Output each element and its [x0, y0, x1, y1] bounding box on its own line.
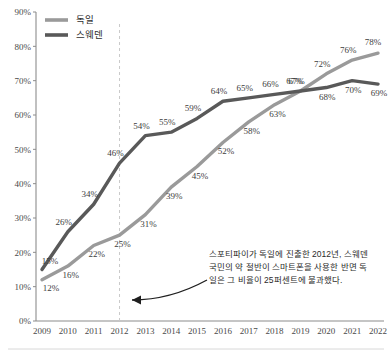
- annotation-line: 일은 그 비율이 25퍼센트에 불과했다.: [209, 275, 342, 285]
- x-axis-tick-label: 2016: [214, 326, 233, 336]
- data-label: 45%: [192, 171, 209, 181]
- data-label: 58%: [244, 126, 261, 136]
- data-label: 22%: [88, 249, 105, 259]
- x-axis-tick-label: 2013: [136, 326, 155, 336]
- data-label: 68%: [319, 92, 336, 102]
- series-line-2: [42, 81, 378, 270]
- y-axis-tick-label: 60%: [15, 110, 32, 120]
- x-axis-tick-label: 2019: [291, 326, 310, 336]
- data-label: 59%: [185, 103, 202, 113]
- data-label: 70%: [345, 85, 362, 95]
- data-label: 67%: [286, 76, 303, 86]
- y-axis-tick-label: 50%: [15, 145, 32, 155]
- data-label: 34%: [81, 189, 98, 199]
- line-chart: 0%10%20%30%40%50%60%70%80%90%20092010201…: [0, 0, 392, 358]
- annotation-line: 국민의 약 절반이 스마트폰을 사용한 반면 독: [209, 262, 367, 272]
- y-axis-tick-label: 20%: [15, 248, 32, 258]
- x-axis-tick-label: 2020: [317, 326, 336, 336]
- data-label: 55%: [159, 117, 176, 127]
- x-axis-tick-label: 2018: [266, 326, 285, 336]
- annotation-line: 스포티파이가 독일에 진출한 2012년, 스웨덴: [209, 249, 368, 259]
- y-axis-tick-label: 30%: [15, 213, 32, 223]
- data-label: 12%: [43, 283, 60, 293]
- annotation-arrow-icon: [132, 280, 207, 300]
- data-label: 78%: [365, 37, 382, 47]
- x-axis-tick-label: 2011: [85, 326, 103, 336]
- data-label: 66%: [262, 79, 279, 89]
- data-label: 63%: [269, 109, 286, 119]
- x-axis-tick-label: 2010: [59, 326, 78, 336]
- x-axis-tick-label: 2012: [111, 326, 129, 336]
- data-label: 26%: [56, 217, 73, 227]
- y-axis-tick-label: 90%: [15, 7, 32, 17]
- data-label: 16%: [63, 270, 80, 280]
- data-label: 39%: [166, 191, 183, 201]
- legend-label-1: 독일: [76, 14, 94, 25]
- data-label: 25%: [114, 239, 131, 249]
- x-axis-tick-label: 2009: [33, 326, 52, 336]
- y-axis-tick-label: 0%: [19, 316, 32, 326]
- data-label: 15%: [42, 256, 59, 266]
- data-label: 76%: [340, 45, 357, 55]
- data-label: 64%: [211, 86, 228, 96]
- data-label: 65%: [237, 83, 254, 93]
- x-axis-tick-label: 2015: [188, 326, 207, 336]
- data-label: 31%: [140, 219, 157, 229]
- y-axis-tick-label: 70%: [15, 76, 32, 86]
- x-axis-tick-label: 2014: [162, 326, 181, 336]
- data-label: 54%: [133, 121, 150, 131]
- x-axis-tick-label: 2022: [369, 326, 387, 336]
- data-label: 46%: [107, 148, 124, 158]
- y-axis-tick-label: 80%: [15, 42, 32, 52]
- legend-label-2: 스웨덴: [76, 29, 103, 40]
- annotation-arrowhead-icon: [132, 296, 141, 305]
- x-axis-tick-label: 2021: [343, 326, 361, 336]
- chart-canvas: 0%10%20%30%40%50%60%70%80%90%20092010201…: [0, 0, 392, 358]
- data-label: 69%: [371, 88, 388, 98]
- data-label: 72%: [314, 59, 331, 69]
- x-axis-tick-label: 2017: [240, 326, 259, 336]
- data-label: 52%: [218, 146, 235, 156]
- y-axis-tick-label: 10%: [15, 282, 32, 292]
- y-axis-tick-label: 40%: [15, 179, 32, 189]
